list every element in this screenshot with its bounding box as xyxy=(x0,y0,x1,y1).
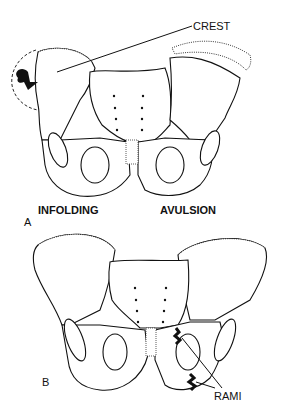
left-obturator-a xyxy=(81,147,109,183)
crest-label: CREST xyxy=(193,20,231,32)
pelvis-fracture-diagram: CREST INFOLDING AVULSION A RAMI B xyxy=(0,0,286,414)
avulsion-caption: AVULSION xyxy=(160,204,216,216)
left-obturator-b xyxy=(103,334,127,370)
pubic-symphysis-a xyxy=(126,140,138,164)
rami-label: RAMI xyxy=(214,390,242,402)
sacrum-b xyxy=(109,260,189,328)
sacrum-a xyxy=(90,68,171,142)
infolding-caption: INFOLDING xyxy=(38,204,99,216)
panel-b-label: B xyxy=(42,376,49,388)
panel-a-label: A xyxy=(24,216,32,228)
panel-a: CREST INFOLDING AVULSION A xyxy=(12,20,251,228)
pubic-symphysis-b xyxy=(146,328,156,356)
right-obturator-a xyxy=(156,147,184,183)
panel-b: RAMI B xyxy=(33,234,266,402)
right-ilium-a xyxy=(170,57,240,140)
